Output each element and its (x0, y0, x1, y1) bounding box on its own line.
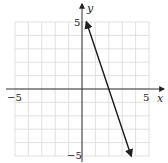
x-min-tick-label: −5 (7, 92, 22, 103)
y-axis-label: y (86, 2, 94, 15)
y-max-tick-label: 5 (74, 17, 80, 28)
x-axis-label: x (157, 92, 164, 105)
coordinate-plane: −5 5 x 5 −5 y (0, 0, 168, 163)
x-max-tick-label: 5 (143, 92, 149, 103)
y-min-tick-label: −5 (67, 150, 82, 161)
